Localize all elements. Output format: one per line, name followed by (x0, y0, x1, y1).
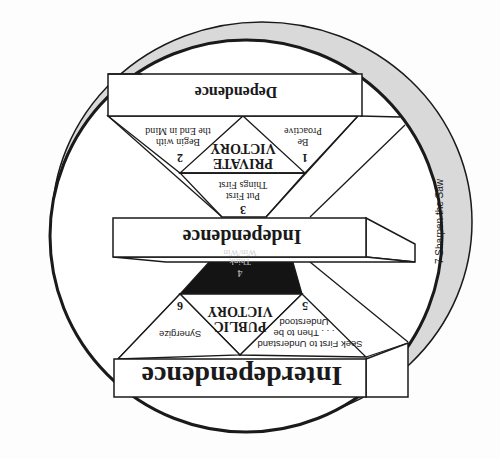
habit-3-line2: Things First (218, 180, 267, 191)
interdependence-label: Interdependence (142, 361, 343, 392)
public-victory-line2: VICTORY (207, 304, 272, 319)
private-victory-line2: VICTORY (210, 141, 275, 156)
habit-6-number: 6 (177, 299, 183, 313)
habit-3-line1: Put First (226, 191, 260, 202)
habit-4-number: 4 (238, 268, 243, 279)
habit-3-number: 3 (240, 203, 246, 217)
habit-7-ring-label: 7 Sharpen the Saw (434, 178, 445, 264)
independence-label: Independence (182, 225, 301, 248)
habit-5-line3: Understood (279, 317, 328, 328)
dependence-label: Dependence (195, 83, 278, 101)
seven-habits-diagram: Dependence Independence Interdependence … (0, 0, 500, 459)
habit-6-line1: Synergize (159, 329, 201, 340)
habit-2-number: 2 (177, 151, 183, 165)
habit-5-line2: . . . Then to be (273, 328, 334, 339)
public-victory-line1: PUBLIC (214, 319, 267, 334)
habit-4-line2: Win/Win (223, 248, 256, 258)
habit-5-number: 5 (302, 299, 308, 313)
habit-2-line1: Begin with (156, 137, 200, 148)
habit-1-number: 1 (302, 151, 308, 165)
habit-1-line2: Proactive (284, 126, 322, 137)
habit-5-line1: Seek First to Understand (257, 339, 362, 350)
private-victory-line1: PRIVATE (213, 156, 273, 171)
habit-2-line2: the End in Mind (145, 126, 210, 137)
habit-1-line1: Be (297, 137, 309, 148)
diagram-canvas: Dependence Independence Interdependence … (0, 0, 500, 459)
